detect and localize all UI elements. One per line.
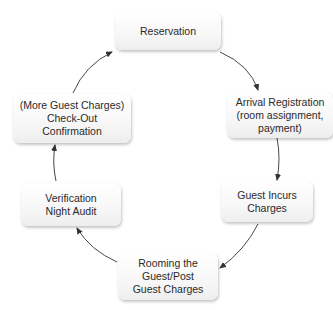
node-rooming-line-3: Guest Charges xyxy=(133,283,204,296)
node-audit-line-1: Verification xyxy=(45,192,96,205)
arrow-reservation-to-arrival xyxy=(220,52,258,90)
arrow-audit-to-checkout xyxy=(54,145,56,181)
node-arrival-registration: Arrival Registration (room assignment, p… xyxy=(227,92,333,138)
node-guest-incurs-charges: Guest Incurs Charges xyxy=(221,181,313,222)
node-rooming-line-2: Guest/Post xyxy=(133,270,204,283)
node-checkout-line-2: Check-Out xyxy=(20,112,124,125)
node-incurs-line-2: Charges xyxy=(237,202,297,215)
node-arrival-line-3: payment) xyxy=(236,122,325,135)
arrow-arrival-to-incurs xyxy=(277,138,279,180)
node-arrival-line-1: Arrival Registration xyxy=(236,96,325,109)
arrow-rooming-to-audit xyxy=(77,228,117,262)
node-rooming-line-1: Rooming the xyxy=(133,257,204,270)
node-checkout-line-3: Confirmation xyxy=(20,125,124,138)
node-reservation: Reservation xyxy=(115,12,221,50)
node-verification-night-audit: Verification Night Audit xyxy=(21,183,121,226)
node-rooming-guest: Rooming the Guest/Post Guest Charges xyxy=(118,253,218,300)
node-checkout-confirmation: (More Guest Charges) Check-Out Confirmat… xyxy=(13,94,131,143)
arrow-checkout-to-reservation xyxy=(73,52,112,93)
node-arrival-line-2: (room assignment, xyxy=(236,109,325,122)
arrow-incurs-to-rooming xyxy=(220,224,258,268)
node-checkout-line-1: (More Guest Charges) xyxy=(20,99,124,112)
node-audit-line-2: Night Audit xyxy=(45,205,96,218)
node-incurs-line-1: Guest Incurs xyxy=(237,189,297,202)
node-reservation-line-1: Reservation xyxy=(140,25,196,38)
